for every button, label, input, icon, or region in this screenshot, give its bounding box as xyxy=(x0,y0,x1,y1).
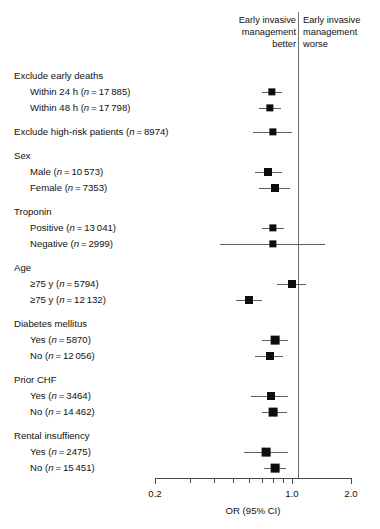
point-estimate-marker xyxy=(268,88,275,95)
axis-tick xyxy=(351,478,352,484)
row-group-label: Troponin xyxy=(14,204,52,220)
row-label: No (n = 14 462) xyxy=(30,404,95,420)
plot-row: Yes (n = 5870) xyxy=(0,332,380,348)
row-label: Positive (n = 13 041) xyxy=(30,220,116,236)
axis-title: OR (95% CI) xyxy=(226,505,281,516)
axis-tick xyxy=(249,478,250,483)
row-group-label: Age xyxy=(14,260,31,276)
row-label: Male (n = 10 573) xyxy=(30,164,103,180)
axis-tick-label: 1.0 xyxy=(285,487,298,500)
point-estimate-marker xyxy=(288,280,296,288)
row-label: Yes (n = 2475) xyxy=(30,444,91,460)
axis-tick xyxy=(190,478,191,483)
row-label: Exclude high-risk patients (n = 8974) xyxy=(14,124,169,140)
row-label: No (n = 15 451) xyxy=(30,460,95,476)
plot-row-heading: Prior CHF xyxy=(0,372,380,388)
plot-row: Within 48 h (n = 17 798) xyxy=(0,100,380,116)
plot-row: Exclude high-risk patients (n = 8974) xyxy=(0,124,380,140)
point-estimate-marker xyxy=(266,104,273,111)
plot-row: Negative (n = 2999) xyxy=(0,236,380,252)
axis-tick xyxy=(214,478,215,483)
axis-tick-label: 2.0 xyxy=(344,487,357,500)
row-label: ≥75 y (n = 5794) xyxy=(30,276,99,292)
row-label: Within 48 h (n = 17 798) xyxy=(30,100,130,116)
point-estimate-marker xyxy=(271,184,279,192)
point-estimate-marker xyxy=(269,224,276,231)
point-estimate-marker xyxy=(267,392,275,400)
point-estimate-marker xyxy=(269,408,278,417)
row-group-label: Sex xyxy=(14,148,31,164)
point-estimate-marker xyxy=(262,448,271,457)
plot-row-heading: Age xyxy=(0,260,380,276)
row-label: Negative (n = 2999) xyxy=(30,236,113,252)
row-label: Female (n = 7353) xyxy=(30,180,107,196)
axis-tick xyxy=(233,478,234,483)
row-label: ≥75 y (n = 12 132) xyxy=(30,292,106,308)
axis-tick xyxy=(155,478,156,484)
plot-row: Within 24 h (n = 17 885) xyxy=(0,84,380,100)
axis-tick xyxy=(273,478,274,483)
plot-row-heading: Exclude early deaths xyxy=(0,68,380,84)
plot-row: ≥75 y (n = 12 132) xyxy=(0,292,380,308)
row-label: Yes (n = 3464) xyxy=(30,388,91,404)
header-right-worse: Early invasive management worse xyxy=(303,14,380,51)
row-group-label: Diabetes mellitus xyxy=(14,316,87,332)
forest-plot: Early invasive management better Early i… xyxy=(0,0,380,529)
plot-row-heading: Troponin xyxy=(0,204,380,220)
row-label: Yes (n = 5870) xyxy=(30,332,91,348)
header-left-better: Early invasive management better xyxy=(186,14,296,51)
row-label: No (n = 12 056) xyxy=(30,348,95,364)
row-group-label: Exclude early deaths xyxy=(14,68,103,84)
axis-tick-label: 0.2 xyxy=(148,487,161,500)
row-group-label: Prior CHF xyxy=(14,372,57,388)
plot-row: Positive (n = 13 041) xyxy=(0,220,380,236)
point-estimate-marker xyxy=(271,464,280,473)
plot-row: Yes (n = 2475) xyxy=(0,444,380,460)
axis-tick xyxy=(292,478,293,484)
x-axis-line xyxy=(155,478,351,479)
row-label: Within 24 h (n = 17 885) xyxy=(30,84,130,100)
axis-tick xyxy=(262,478,263,483)
plot-row-heading: Rental insuffiency xyxy=(0,428,380,444)
plot-row: ≥75 y (n = 5794) xyxy=(0,276,380,292)
point-estimate-marker xyxy=(269,240,276,247)
plot-row-heading: Sex xyxy=(0,148,380,164)
plot-row: No (n = 14 462) xyxy=(0,404,380,420)
point-estimate-marker xyxy=(269,128,276,135)
point-estimate-marker xyxy=(245,296,253,304)
plot-row: Yes (n = 3464) xyxy=(0,388,380,404)
point-estimate-marker xyxy=(266,352,274,360)
plot-row: No (n = 12 056) xyxy=(0,348,380,364)
plot-row: No (n = 15 451) xyxy=(0,460,380,476)
plot-row: Female (n = 7353) xyxy=(0,180,380,196)
plot-row: Male (n = 10 573) xyxy=(0,164,380,180)
point-estimate-marker xyxy=(264,168,272,176)
axis-tick xyxy=(283,478,284,483)
row-group-label: Rental insuffiency xyxy=(14,428,90,444)
header-divider-line xyxy=(298,12,299,74)
point-estimate-marker xyxy=(271,336,280,345)
plot-row-heading: Diabetes mellitus xyxy=(0,316,380,332)
